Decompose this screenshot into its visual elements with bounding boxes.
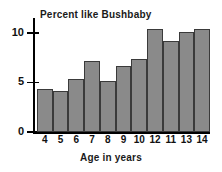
bar bbox=[179, 32, 195, 132]
bar bbox=[37, 89, 53, 132]
y-axis-line bbox=[33, 18, 35, 132]
x-tick-label: 12 bbox=[147, 135, 163, 145]
x-tick-label: 6 bbox=[68, 135, 84, 145]
bar bbox=[131, 59, 147, 132]
bar-chart-figure: Percent like Bushbaby 0510 4567891012111… bbox=[0, 0, 222, 172]
y-tick-label: 5 bbox=[18, 77, 24, 88]
y-tick-label: 0 bbox=[18, 126, 24, 137]
bar bbox=[84, 61, 100, 132]
bar bbox=[100, 81, 116, 132]
x-tick-label: 13 bbox=[179, 135, 195, 145]
bar bbox=[163, 41, 179, 132]
bar bbox=[116, 66, 132, 132]
x-tick-label: 8 bbox=[100, 135, 116, 145]
x-tick-label: 7 bbox=[84, 135, 100, 145]
x-tick-label: 9 bbox=[116, 135, 132, 145]
x-tick-label: 4 bbox=[37, 135, 53, 145]
bar bbox=[68, 79, 84, 132]
x-tick-label: 10 bbox=[131, 135, 147, 145]
bar bbox=[147, 29, 163, 132]
x-axis-title: Age in years bbox=[0, 152, 222, 163]
x-tick-label: 11 bbox=[163, 135, 179, 145]
y-tick-label: 10 bbox=[12, 27, 24, 38]
bar-series bbox=[37, 18, 210, 132]
bar bbox=[194, 29, 210, 132]
x-tick-label: 5 bbox=[53, 135, 69, 145]
plot-area: 0510 4567891012111314 bbox=[37, 18, 210, 132]
bar bbox=[53, 91, 69, 132]
x-tick-label: 14 bbox=[194, 135, 210, 145]
